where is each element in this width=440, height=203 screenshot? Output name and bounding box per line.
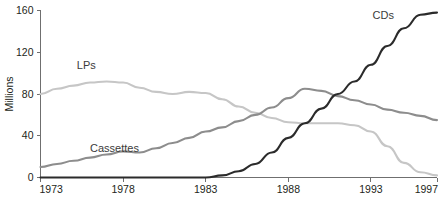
y-axis: 04080120160 [16, 4, 41, 183]
y-tick-label: 80 [22, 88, 34, 100]
x-tick-label: 1993 [359, 183, 383, 195]
series-label-cassettes: Cassettes [90, 142, 139, 154]
series-line-cassettes [41, 89, 438, 167]
x-tick-label: 1997 [415, 183, 439, 195]
x-tick-label: 1988 [277, 183, 301, 195]
x-tick-label: 1983 [194, 183, 218, 195]
series-label-cds: CDs [373, 9, 395, 21]
y-tick-label: 160 [16, 4, 34, 16]
y-tick-label: 120 [16, 46, 34, 58]
series-label-lps: LPs [77, 59, 96, 71]
line-chart: 04080120160 197319781983198819931997 LPs… [0, 0, 440, 203]
x-tick-label: 1978 [111, 183, 135, 195]
x-tick-label: 1973 [40, 183, 64, 195]
y-tick-label: 40 [22, 129, 34, 141]
series-line-lps [41, 81, 438, 175]
y-tick-label: 0 [28, 171, 34, 183]
x-axis: 197319781983198819931997 [40, 178, 439, 195]
chart-canvas: 04080120160 197319781983198819931997 LPs… [0, 0, 440, 203]
y-axis-title: Millions [3, 76, 15, 111]
